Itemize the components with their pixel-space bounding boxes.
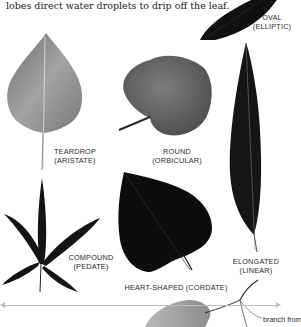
label-elongated-common: ELONGATED	[227, 257, 285, 266]
label-elongated: ELONGATED (LINEAR)	[227, 257, 285, 275]
label-compound-botanical: (PEDATE)	[64, 262, 118, 271]
heart-leaf-icon	[118, 172, 212, 272]
divider-arrow-right-icon	[276, 302, 281, 308]
label-oval-botanical: (ELLIPTIC)	[248, 22, 296, 31]
label-teardrop: TEARDROP (ARISTATE)	[50, 147, 100, 165]
label-teardrop-common: TEARDROP	[50, 147, 100, 156]
elongated-leaf-icon	[230, 42, 261, 252]
branch-annotation: branch from	[263, 315, 301, 324]
label-compound: COMPOUND (PEDATE)	[64, 253, 118, 271]
label-oval-common: OVAL	[248, 13, 296, 22]
label-heart: HEART-SHAPED (CORDATE)	[116, 283, 236, 292]
label-compound-common: COMPOUND	[64, 253, 118, 262]
divider-rule	[2, 305, 278, 306]
label-elongated-botanical: (LINEAR)	[227, 266, 285, 275]
label-round: ROUND (ORBICULAR)	[150, 147, 204, 165]
book-page: lobes direct water droplets to drip off …	[0, 0, 301, 327]
label-heart-common: HEART-SHAPED (CORDATE)	[116, 283, 236, 292]
label-oval: OVAL (ELLIPTIC)	[248, 13, 296, 31]
label-round-botanical: (ORBICULAR)	[150, 156, 204, 165]
label-teardrop-botanical: (ARISTATE)	[50, 156, 100, 165]
round-leaf-icon	[119, 56, 212, 136]
label-round-common: ROUND	[150, 147, 204, 156]
compound-leaf-icon	[2, 178, 100, 292]
